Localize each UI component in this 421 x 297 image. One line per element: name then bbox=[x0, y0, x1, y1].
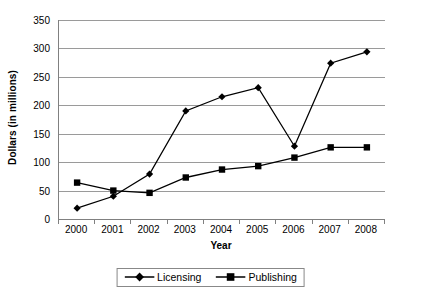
data-point-diamond bbox=[363, 48, 370, 55]
y-axis-tick-label: 200 bbox=[22, 100, 54, 111]
x-axis-tick-label: 2003 bbox=[174, 224, 196, 235]
y-axis-tick-label: 100 bbox=[22, 157, 54, 168]
x-axis-tick-label: 2001 bbox=[101, 224, 123, 235]
y-axis-title: Dollars (in millions) bbox=[0, 0, 24, 235]
square-marker-icon bbox=[215, 271, 245, 283]
x-axis-tick-label: 2004 bbox=[210, 224, 232, 235]
legend-item-publishing[interactable]: Publishing bbox=[215, 271, 296, 283]
data-point-square bbox=[146, 190, 152, 196]
data-point-diamond bbox=[146, 170, 153, 177]
diamond-marker-icon bbox=[124, 271, 154, 283]
y-axis-tick-label: 300 bbox=[22, 43, 54, 54]
y-axis-tick-label: 0 bbox=[22, 214, 54, 225]
x-axis-tick-label: 2002 bbox=[137, 224, 159, 235]
x-axis-tick-label: 2005 bbox=[246, 224, 268, 235]
y-axis-tick-label: 250 bbox=[22, 71, 54, 82]
data-point-diamond bbox=[182, 107, 189, 114]
series-line-licensing bbox=[77, 52, 367, 208]
y-axis-tick-label: 350 bbox=[22, 15, 54, 26]
y-axis-title-label: Dollars (in millions) bbox=[7, 70, 18, 165]
data-point-square bbox=[74, 179, 80, 185]
y-axis-tick-labels: 050100150200250300350 bbox=[22, 0, 54, 297]
data-point-diamond bbox=[74, 205, 81, 212]
x-axis-tick-label: 2000 bbox=[65, 224, 87, 235]
line-chart: Dollars (in millions) 050100150200250300… bbox=[0, 0, 421, 297]
data-point-diamond bbox=[255, 84, 262, 91]
data-point-diamond bbox=[327, 60, 334, 67]
plot-area bbox=[58, 20, 385, 220]
data-point-square bbox=[291, 154, 297, 160]
legend-item-licensing[interactable]: Licensing bbox=[124, 271, 201, 283]
data-point-square bbox=[364, 144, 370, 150]
series-lines bbox=[59, 20, 385, 219]
x-axis-tick-labels: 200020012002200320042005200620072008 bbox=[58, 224, 384, 240]
data-point-diamond bbox=[218, 93, 225, 100]
chart-legend: Licensing Publishing bbox=[116, 268, 305, 287]
y-axis-tick-label: 150 bbox=[22, 128, 54, 139]
x-axis-tick-label: 2008 bbox=[355, 224, 377, 235]
x-axis-tick-label: 2006 bbox=[282, 224, 304, 235]
data-point-square bbox=[327, 144, 333, 150]
data-point-square bbox=[183, 174, 189, 180]
data-point-square bbox=[219, 166, 225, 172]
legend-label-publishing: Publishing bbox=[247, 271, 296, 283]
x-axis-tick-label: 2007 bbox=[319, 224, 341, 235]
data-point-square bbox=[255, 163, 261, 169]
legend-label-licensing: Licensing bbox=[156, 271, 201, 283]
x-axis-tick-mark bbox=[384, 220, 385, 224]
data-point-diamond bbox=[291, 143, 298, 150]
x-axis-title: Year bbox=[58, 240, 384, 251]
y-axis-tick-label: 50 bbox=[22, 185, 54, 196]
data-point-square bbox=[110, 187, 116, 193]
